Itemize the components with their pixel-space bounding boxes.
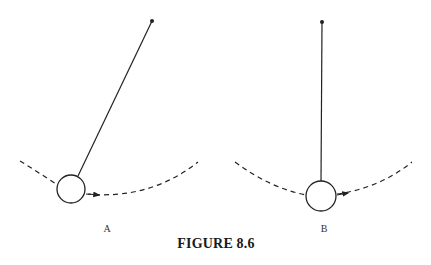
bob-a bbox=[57, 175, 85, 203]
string-b bbox=[321, 22, 322, 181]
bob-b bbox=[306, 181, 336, 211]
pendulum-figure bbox=[0, 0, 431, 265]
panel-label-b: B bbox=[321, 223, 328, 234]
panel-label-a: A bbox=[103, 223, 110, 234]
swing-arc-right-a bbox=[86, 162, 198, 195]
swing-arc-left-b bbox=[235, 162, 306, 195]
figure-caption: FIGURE 8.6 bbox=[177, 236, 254, 252]
pendulum-a bbox=[20, 19, 198, 203]
swing-arc-right-b bbox=[337, 162, 412, 194]
pivot-b bbox=[320, 20, 324, 24]
swing-arc-left-a bbox=[20, 161, 56, 184]
string-a bbox=[78, 21, 152, 176]
pendulum-b bbox=[235, 20, 412, 211]
pivot-a bbox=[150, 19, 154, 23]
